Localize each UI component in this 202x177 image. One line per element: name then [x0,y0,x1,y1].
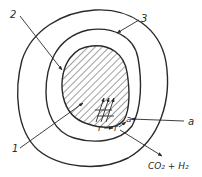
label-a-inner: a [126,114,132,124]
leader-1-arrow [20,103,83,148]
products-outflow-arrow [120,130,162,156]
label-products: CO₂ + H₂ [148,161,189,171]
particle-diagram: 2 3 1 a a r r CO₂ + H₂ [0,0,202,177]
label-3: 3 [141,13,147,24]
leader-3-arrow [117,20,139,33]
a-inflow-arrow [131,119,184,121]
core [62,46,129,128]
label-a-outer: a [188,116,194,127]
label-2: 2 [10,9,16,20]
leader-2-arrow [20,16,62,70]
label-1: 1 [12,143,18,154]
